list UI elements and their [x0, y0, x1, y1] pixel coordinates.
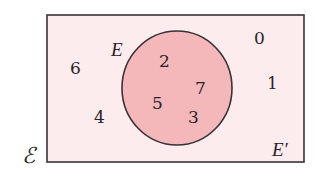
complement-label: E′	[271, 139, 289, 160]
element-outside-e: 4	[94, 107, 105, 127]
element-in-e: 3	[188, 107, 199, 127]
element-in-e: 5	[152, 93, 163, 113]
element-in-e: 7	[195, 78, 206, 98]
universal-set-label: ℰ	[22, 143, 38, 168]
element-outside-e: 0	[254, 28, 265, 48]
element-outside-e: 6	[70, 58, 81, 78]
set-e-circle	[122, 31, 232, 145]
set-e-label: E	[110, 39, 123, 60]
venn-diagram: ℰ E E′ 2 7 5 3 6 4 0 1	[0, 0, 315, 185]
element-outside-e: 1	[267, 73, 278, 93]
element-in-e: 2	[159, 51, 170, 71]
